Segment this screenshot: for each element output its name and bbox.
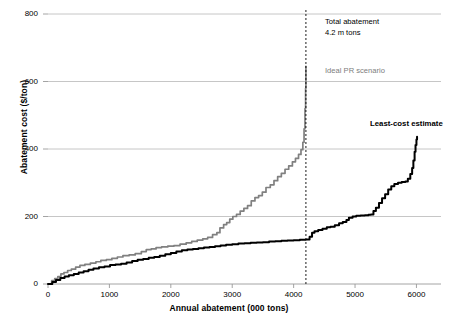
x-tick-4000: 4000: [274, 290, 314, 299]
x-tick-0: 0: [28, 290, 68, 299]
abatement-cost-curve-chart: [0, 0, 458, 326]
x-tick-1000: 1000: [89, 290, 129, 299]
x-tick-6000: 6000: [396, 290, 436, 299]
x-axis-label: Annual abatement (000 tons): [0, 303, 458, 313]
annotation-total-abatement-line2: 4.2 m tons: [325, 28, 379, 39]
series-lines: [48, 66, 417, 284]
y-tick-0: 0: [8, 279, 38, 288]
axis-lines: [43, 14, 441, 288]
y-tick-200: 200: [8, 212, 38, 221]
series-path-least-cost-estimate: [48, 137, 417, 284]
series-label-ideal-pr-scenario: Ideal PR scenario: [325, 66, 385, 77]
annotation-total-abatement: Total abatement 4.2 m tons: [325, 17, 379, 38]
y-tick-800: 800: [8, 9, 38, 18]
y-tick-600: 600: [8, 77, 38, 86]
x-tick-3000: 3000: [212, 290, 252, 299]
gridlines: [48, 14, 441, 217]
x-tick-2000: 2000: [151, 290, 191, 299]
annotation-total-abatement-line1: Total abatement: [325, 17, 379, 28]
y-tick-400: 400: [8, 144, 38, 153]
x-tick-5000: 5000: [335, 290, 375, 299]
series-label-least-cost-estimate: Least-cost estimate: [370, 119, 443, 130]
chart-container: Abatement cost ($/ton) Annual abatement …: [0, 0, 458, 326]
